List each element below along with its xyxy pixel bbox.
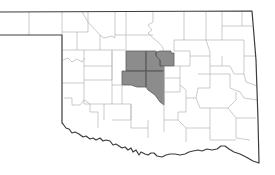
county-grady — [122, 71, 146, 87]
map-container: Oklahoma — [0, 0, 275, 175]
county-canadian — [126, 51, 146, 71]
oklahoma-county-map — [0, 0, 275, 175]
county-cleveland — [146, 71, 164, 105]
